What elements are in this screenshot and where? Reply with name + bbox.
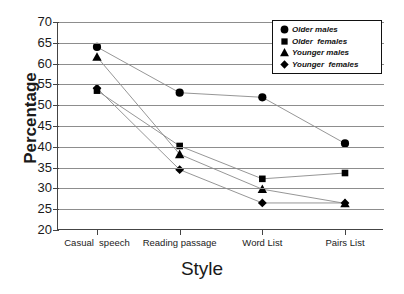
legend-item: Older females	[278, 36, 377, 48]
legend-item: Younger males	[278, 47, 377, 59]
y-axis-tick-label: 70	[22, 15, 52, 28]
legend-label: Older males	[291, 25, 338, 34]
square-marker-icon	[278, 36, 291, 47]
y-axis-tick-label: 60	[22, 57, 52, 70]
data-point-marker	[93, 43, 101, 51]
y-axis-tick-label: 20	[22, 223, 52, 236]
x-axis-tick	[180, 230, 181, 235]
data-point-marker	[176, 89, 184, 97]
x-axis-tick	[262, 230, 263, 235]
y-axis-tick-label: 40	[22, 140, 52, 153]
legend-label: Younger males	[291, 48, 349, 57]
legend-item: Younger females	[278, 59, 377, 71]
legend-item: Older males	[278, 24, 377, 36]
gridline	[58, 105, 384, 106]
y-axis-tick-label: 45	[22, 119, 52, 132]
y-axis-tick	[53, 209, 59, 210]
y-axis-tick-label: 50	[22, 98, 52, 111]
y-axis-tick-label: 25	[22, 202, 52, 215]
y-axis-tick	[53, 230, 59, 231]
legend: Older malesOlder femalesYounger malesYou…	[272, 20, 382, 74]
gridline	[58, 209, 384, 210]
y-axis-tick	[53, 147, 59, 148]
y-axis-tick	[53, 22, 59, 23]
y-axis-tick	[53, 84, 59, 85]
circle-marker-icon	[278, 24, 291, 35]
data-point-marker	[259, 176, 266, 183]
series-line	[97, 91, 345, 179]
legend-label: Older females	[291, 37, 347, 46]
y-axis-tick	[53, 43, 59, 44]
y-axis-tick-label: 55	[22, 77, 52, 90]
triangle-marker-icon	[278, 47, 291, 58]
y-axis-tick	[53, 168, 59, 169]
gridline	[58, 84, 384, 85]
gridline	[58, 147, 384, 148]
x-axis-tick-label: Pairs List	[285, 237, 404, 248]
x-axis-title: Style	[0, 258, 404, 280]
data-point-marker	[342, 170, 349, 177]
x-axis-tick	[345, 230, 346, 235]
legend-label: Younger females	[291, 60, 358, 69]
y-axis-tick-label: 35	[22, 161, 52, 174]
data-point-marker	[258, 199, 267, 208]
y-axis-tick	[53, 64, 59, 65]
gridline	[58, 188, 384, 189]
line-chart: Percentage 7065605550454035302520Casual …	[0, 0, 404, 294]
data-point-marker	[92, 52, 101, 61]
y-axis-tick-label: 30	[22, 181, 52, 194]
data-point-marker	[258, 93, 266, 101]
series-line	[97, 57, 345, 203]
y-axis-tick	[53, 105, 59, 106]
x-axis-tick	[97, 230, 98, 235]
y-axis-tick	[53, 126, 59, 127]
y-axis-tick	[53, 188, 59, 189]
gridline	[58, 126, 384, 127]
gridline	[58, 168, 384, 169]
y-axis-tick-label: 65	[22, 36, 52, 49]
diamond-marker-icon	[278, 59, 291, 70]
